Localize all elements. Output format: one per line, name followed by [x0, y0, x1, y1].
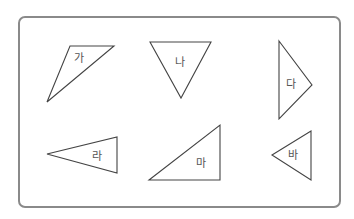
triangle-label: 다 [286, 78, 296, 91]
triangle-label: 나 [175, 56, 185, 69]
triangle-shape [47, 137, 117, 173]
triangle-label: 바 [288, 149, 298, 162]
triangle-label: 마 [196, 157, 206, 170]
triangle-ma: 마 [149, 125, 220, 180]
triangle-na: 나 [150, 42, 211, 98]
triangle-shape [150, 42, 211, 98]
triangle-ba: 바 [272, 131, 311, 180]
triangle-label: 가 [74, 52, 84, 65]
triangle-label: 라 [92, 150, 102, 163]
triangle-shape [149, 125, 220, 180]
triangles-canvas: 가 나 다 라 마 바 [0, 0, 354, 219]
triangle-da: 다 [279, 41, 312, 119]
triangle-ra: 라 [47, 137, 117, 173]
triangle-ga: 가 [47, 46, 114, 102]
